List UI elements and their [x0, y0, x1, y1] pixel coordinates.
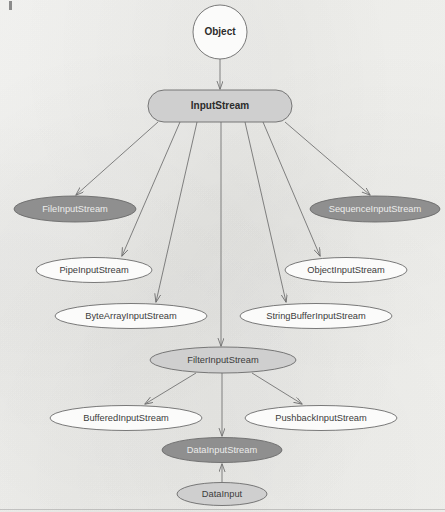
node-file-input-stream[interactable]: FileInputStream: [14, 196, 136, 222]
edge-input-stream-to-object-input-stream: [263, 122, 320, 256]
edge-input-stream-to-string-buffer-input-stream: [245, 122, 286, 302]
node-buffered-input-stream[interactable]: BufferedInputStream: [50, 406, 202, 431]
node-label-pushback-input-stream: PushbackInputStream: [275, 413, 367, 423]
class-hierarchy-diagram: ObjectInputStreamFileInputStreamSequence…: [0, 0, 445, 512]
node-label-pipe-input-stream: PipeInputStream: [59, 265, 129, 275]
node-label-object-input-stream: ObjectInputStream: [307, 265, 385, 275]
node-byte-array-input-stream[interactable]: ByteArrayInputStream: [55, 304, 207, 329]
node-label-object: Object: [204, 26, 236, 37]
node-pipe-input-stream[interactable]: PipeInputStream: [36, 258, 152, 283]
node-label-data-input-stream: DataInputStream: [187, 445, 258, 455]
edge-input-stream-to-file-input-stream: [76, 122, 158, 195]
node-pushback-input-stream[interactable]: PushbackInputStream: [245, 406, 397, 431]
node-input-stream[interactable]: InputStream: [148, 90, 292, 122]
node-label-sequence-input-stream: SequenceInputStream: [329, 204, 422, 214]
node-label-data-input: DataInput: [202, 489, 243, 499]
node-string-buffer-input-stream[interactable]: StringBufferInputStream: [240, 304, 392, 329]
node-sequence-input-stream[interactable]: SequenceInputStream: [310, 196, 440, 222]
edge-filter-input-stream-to-pushback-input-stream: [252, 373, 302, 404]
node-label-string-buffer-input-stream: StringBufferInputStream: [266, 311, 366, 321]
node-data-input-stream[interactable]: DataInputStream: [162, 438, 282, 463]
edge-filter-input-stream-to-buffered-input-stream: [145, 373, 196, 404]
node-filter-input-stream[interactable]: FilterInputStream: [150, 347, 296, 373]
nodes-layer: ObjectInputStreamFileInputStreamSequence…: [14, 5, 440, 506]
node-label-filter-input-stream: FilterInputStream: [187, 355, 259, 365]
node-object[interactable]: Object: [193, 5, 247, 59]
node-data-input[interactable]: DataInput: [177, 483, 267, 506]
page-bottom-rule: [0, 509, 445, 510]
node-label-input-stream: InputStream: [191, 100, 249, 111]
node-label-file-input-stream: FileInputStream: [42, 204, 108, 214]
node-label-byte-array-input-stream: ByteArrayInputStream: [85, 311, 177, 321]
edge-input-stream-to-byte-array-input-stream: [156, 122, 197, 302]
edge-input-stream-to-sequence-input-stream: [285, 122, 370, 195]
diagram-page: ObjectInputStreamFileInputStreamSequence…: [0, 0, 445, 512]
node-label-buffered-input-stream: BufferedInputStream: [83, 413, 169, 423]
node-object-input-stream[interactable]: ObjectInputStream: [285, 258, 407, 283]
